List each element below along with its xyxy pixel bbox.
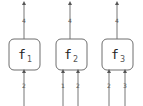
output-label-f1: 4 bbox=[22, 17, 26, 24]
input-label-f2-2: 2 bbox=[76, 82, 80, 89]
function-diagram: 4 f 1 2 4 f 2 1 2 4 f 3 2 3 bbox=[0, 0, 143, 106]
input-label-f3-2: 3 bbox=[123, 82, 127, 89]
input-label-f1-1: 2 bbox=[22, 82, 26, 89]
output-label-f3: 4 bbox=[115, 17, 119, 24]
node-f1: 4 f 1 2 bbox=[9, 3, 40, 106]
input-label-f3-1: 2 bbox=[107, 82, 111, 89]
function-name-f1: f bbox=[18, 47, 26, 62]
function-name-f3: f bbox=[111, 47, 119, 62]
function-name-f2: f bbox=[64, 47, 72, 62]
output-label-f2: 4 bbox=[68, 17, 72, 24]
function-subscript-f1: 1 bbox=[27, 55, 32, 64]
function-subscript-f2: 2 bbox=[73, 55, 78, 64]
node-f3: 4 f 3 2 3 bbox=[102, 3, 133, 106]
input-label-f2-1: 1 bbox=[61, 82, 65, 89]
function-subscript-f3: 3 bbox=[120, 55, 125, 64]
node-f2: 4 f 2 1 2 bbox=[56, 3, 87, 106]
